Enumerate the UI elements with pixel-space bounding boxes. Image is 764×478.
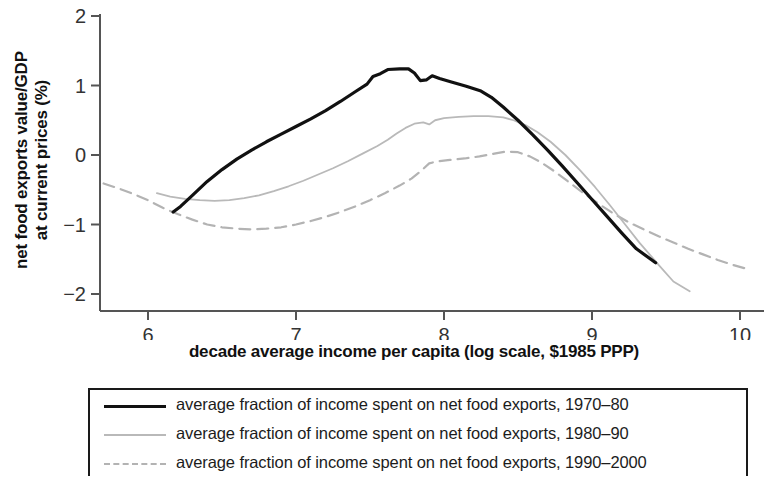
x-tick-label: 7	[290, 324, 301, 340]
legend-item[interactable]: average fraction of income spent on net …	[90, 390, 746, 419]
legend-item-label: average fraction of income spent on net …	[176, 395, 629, 414]
legend-line-solid-gray-icon	[104, 427, 166, 441]
y-tick-label: −2	[63, 283, 86, 305]
x-tick-label: 8	[438, 324, 449, 340]
chart-figure: net food exports value/GDP at current pr…	[0, 0, 764, 478]
x-axis-title: decade average income per capita (log sc…	[64, 342, 764, 362]
chart-series-line	[157, 116, 690, 291]
legend-line-solid-black-icon	[104, 398, 166, 412]
legend-item-label: average fraction of income spent on net …	[176, 453, 647, 472]
legend-item[interactable]: average fraction of income spent on net …	[90, 419, 746, 448]
chart-series-line	[173, 69, 655, 263]
x-tick-label: 6	[142, 324, 153, 340]
x-tick-label: 9	[586, 324, 597, 340]
legend-item-label: average fraction of income spent on net …	[176, 424, 629, 443]
y-tick-label: 0	[75, 144, 86, 166]
legend-item[interactable]: average fraction of income spent on net …	[90, 448, 746, 477]
y-tick-label: 1	[75, 75, 86, 97]
legend-line-dashed-gray-icon	[104, 456, 166, 470]
chart-legend: average fraction of income spent on net …	[88, 388, 748, 476]
y-tick-label: −1	[63, 214, 86, 236]
y-tick-label: 2	[75, 5, 86, 27]
x-tick-label: 10	[729, 324, 751, 340]
chart-series-line	[104, 152, 748, 269]
plot-area: 210−1−2678910	[0, 0, 764, 340]
